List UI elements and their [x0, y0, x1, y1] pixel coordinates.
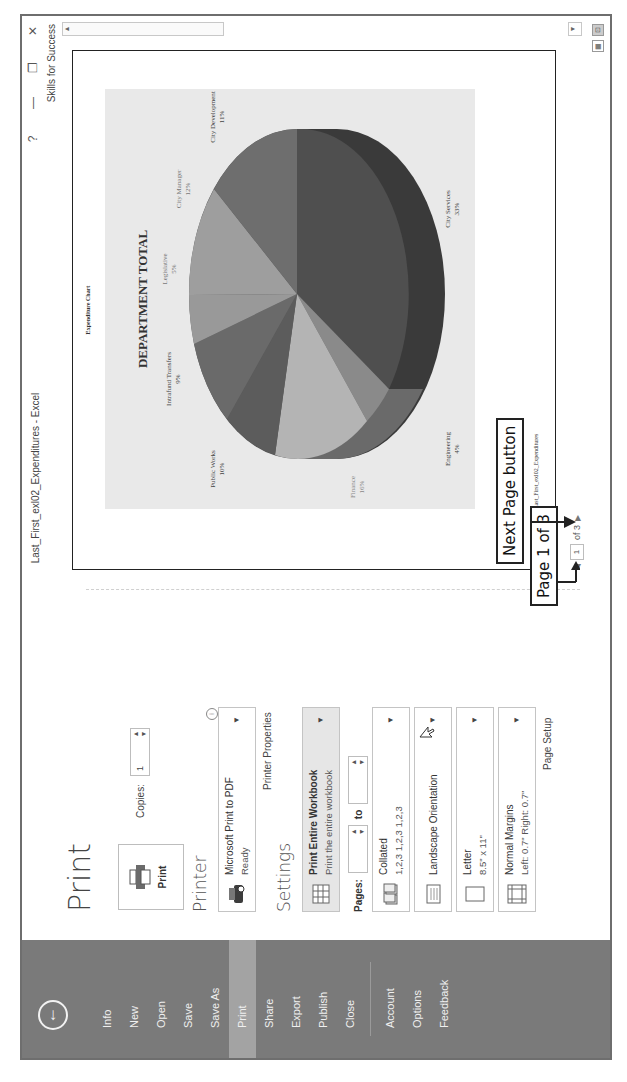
printer-dropdown[interactable]: Microsoft Print to PDF Ready ▼ — [218, 707, 256, 912]
help-button[interactable]: ? — [26, 132, 40, 146]
printer-status: Ready — [239, 848, 250, 875]
svg-text:10%: 10% — [218, 462, 226, 475]
page-title: Print — [62, 843, 97, 912]
info-icon[interactable]: i — [206, 708, 218, 720]
print-settings-panel: Print Print Copies: 1 ▲▼ Printer i — [52, 600, 610, 940]
close-button[interactable]: ✕ — [26, 24, 40, 38]
chart-area: DEPARTMENT TOTAL City Services 33% Engin… — [105, 89, 475, 509]
sidebar-item-export[interactable]: Export — [283, 940, 310, 1058]
svg-text:5%: 5% — [170, 264, 178, 274]
svg-text:16%: 16% — [358, 480, 366, 493]
sidebar-item-info[interactable]: Info — [94, 940, 121, 1058]
stepper-arrows-icon[interactable]: ▲▼ — [350, 828, 366, 835]
mouse-pointer-icon — [419, 724, 435, 738]
label-city-manager: City Manager — [175, 169, 183, 208]
pages-label: Pages: — [353, 879, 364, 912]
copies-value[interactable]: 1 — [135, 739, 145, 775]
sidebar-item-close[interactable]: Close — [337, 940, 364, 1058]
svg-text:11%: 11% — [218, 111, 226, 124]
excel-window: ↓ Info New Open Save Save As Print Share… — [20, 14, 612, 1060]
paper-size-desc: 8.5" x 11" — [477, 835, 488, 875]
scroll-up-icon[interactable]: ▲ — [63, 23, 70, 35]
window-controls: ? — ❐ ✕ — [26, 24, 40, 146]
zoom-controls: ▦ ⊡ — [592, 24, 604, 52]
margins-dropdown[interactable]: Normal Margins Left: 0.7" Right: 0.7" ▼ — [498, 707, 536, 912]
label-city-development: City Development — [209, 91, 217, 143]
label-finance: Finance — [349, 476, 357, 498]
sidebar-item-account[interactable]: Account — [377, 940, 404, 1058]
print-what-dropdown[interactable]: Print Entire Workbook Print the entire w… — [302, 707, 340, 912]
back-button[interactable]: ↓ — [38, 1000, 68, 1030]
label-public-works: Public Works — [209, 450, 217, 488]
pie-chart: DEPARTMENT TOTAL City Services 33% Engin… — [105, 89, 475, 509]
chevron-down-icon: ▼ — [386, 716, 395, 724]
stepper-arrows-icon[interactable]: ▲▼ — [132, 729, 148, 739]
printer-name: Microsoft Print to PDF — [224, 777, 235, 875]
chevron-down-icon: ▼ — [316, 716, 325, 724]
stage: ↓ Info New Open Save Save As Print Share… — [0, 0, 627, 1082]
backstage-sidebar: ↓ Info New Open Save Save As Print Share… — [22, 940, 610, 1058]
sidebar-item-publish[interactable]: Publish — [310, 940, 337, 1058]
print-what-label: Print Entire Workbook — [308, 770, 319, 875]
sidebar-item-open[interactable]: Open — [148, 940, 175, 1058]
paper-size-dropdown[interactable]: Letter 8.5" x 11" ▼ — [456, 707, 494, 912]
sidebar-item-new[interactable]: New — [121, 940, 148, 1058]
sidebar-item-feedback[interactable]: Feedback — [431, 940, 458, 1058]
margins-desc: Left: 0.7" Right: 0.7" — [519, 791, 530, 875]
sidebar-item-print[interactable]: Print — [229, 940, 256, 1058]
printer-properties-link[interactable]: Printer Properties — [262, 712, 273, 790]
orientation-dropdown[interactable]: Landscape Orientation ▼ — [414, 707, 452, 912]
page-header: Expenditure Chart — [85, 51, 91, 569]
svg-text:9%: 9% — [174, 374, 182, 384]
callout-arrow-icon — [556, 558, 580, 588]
printer-heading: Printer — [190, 855, 210, 912]
svg-text:33%: 33% — [453, 202, 461, 215]
pages-range: Pages: ▲▼ to ▲▼ — [348, 756, 368, 912]
sidebar-item-save-as[interactable]: Save As — [202, 940, 229, 1058]
collation-dropdown[interactable]: Collated 1,2,3 1,2,3 1,2,3 ▼ — [372, 707, 410, 912]
orientation-label: Landscape Orientation — [428, 774, 439, 875]
preview-scrollbar[interactable]: ▲ — [62, 22, 224, 36]
pages-to-label: to — [353, 810, 364, 819]
minimize-button[interactable]: — — [26, 96, 40, 110]
svg-text:12%: 12% — [184, 182, 192, 195]
sidebar-item-save[interactable]: Save — [175, 940, 202, 1058]
paper-size-label: Letter — [462, 849, 473, 875]
chevron-down-icon: ▼ — [428, 716, 437, 724]
copies-label: Copies: — [135, 784, 146, 818]
back-arrow-icon: ↓ — [49, 1005, 58, 1025]
page-icon — [464, 883, 486, 905]
show-margins-button[interactable]: ▦ — [592, 40, 604, 52]
collate-icon — [380, 883, 402, 905]
sidebar-nav: Info New Open Save Save As Print Share E… — [94, 940, 458, 1058]
chart-title: DEPARTMENT TOTAL — [135, 230, 150, 368]
sidebar-divider — [370, 962, 371, 1036]
margins-icon — [506, 883, 528, 905]
document-title: Last_First_exl02_Expenditures - Excel — [30, 16, 41, 940]
table-icon — [310, 883, 332, 905]
label-city-services: City Services — [444, 190, 452, 228]
next-page-callout: Next Page button — [496, 418, 524, 564]
sidebar-item-options[interactable]: Options — [404, 940, 431, 1058]
stepper-arrows-icon[interactable]: ▲▼ — [350, 759, 366, 766]
copies-stepper[interactable]: 1 ▲▼ — [130, 728, 150, 776]
page-setup-link[interactable]: Page Setup — [542, 718, 553, 770]
zoom-to-page-button[interactable]: ⊡ — [592, 24, 604, 36]
collation-desc: 1,2,3 1,2,3 1,2,3 — [393, 806, 404, 875]
pages-from-input[interactable]: ▲▼ — [348, 825, 368, 873]
pages-to-input[interactable]: ▲▼ — [348, 756, 368, 804]
print-button-label: Print — [157, 866, 168, 889]
printer-icon — [129, 863, 151, 891]
sidebar-item-share[interactable]: Share — [256, 940, 283, 1058]
chevron-down-icon: ▼ — [232, 716, 241, 724]
print-button[interactable]: Print — [118, 844, 184, 910]
copies-control: Copies: 1 ▲▼ — [130, 728, 150, 818]
user-name[interactable]: Skills for Success — [46, 24, 57, 102]
restore-button[interactable]: ❐ — [26, 60, 40, 74]
label-legislative: Legislative — [161, 253, 169, 284]
label-intrafund: Intrafund Transfers — [165, 352, 173, 406]
callout-arrow-icon — [532, 492, 578, 552]
collation-label: Collated — [378, 838, 389, 875]
landscape-icon — [422, 883, 444, 905]
scroll-down-icon[interactable]: ▼ — [568, 22, 582, 36]
